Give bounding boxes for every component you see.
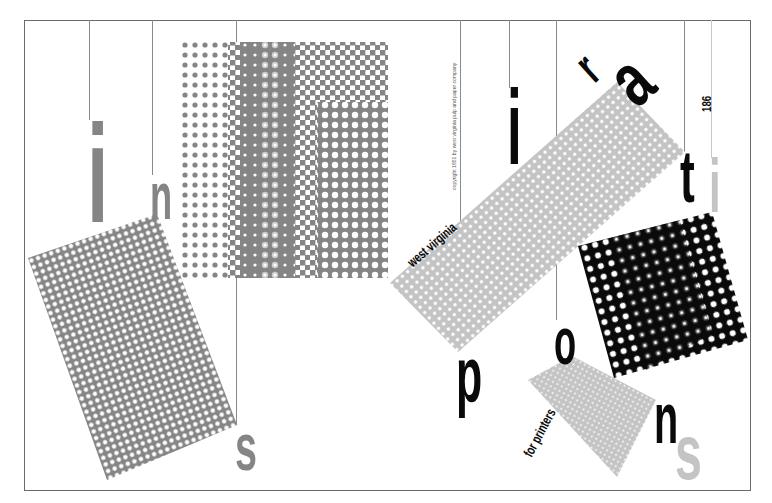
- letter-o-black: o: [554, 308, 594, 374]
- letter-i-gray: i: [87, 104, 126, 244]
- page-number: 186: [699, 96, 714, 112]
- letter-i-black: i: [507, 74, 536, 180]
- letter-s-gray: s: [235, 414, 272, 480]
- letter-s-lightgray: s: [675, 413, 718, 491]
- halftone-black-square: [578, 212, 748, 378]
- copyright-text: copyright 1951 by west virginia pulp and…: [451, 63, 457, 190]
- letter-t-black: t: [680, 140, 705, 214]
- halftone-block-top: [182, 42, 388, 278]
- letter-n-gray: n: [150, 163, 190, 229]
- letter-i-lightgray: i: [709, 148, 730, 224]
- letter-p-black: p: [456, 336, 504, 414]
